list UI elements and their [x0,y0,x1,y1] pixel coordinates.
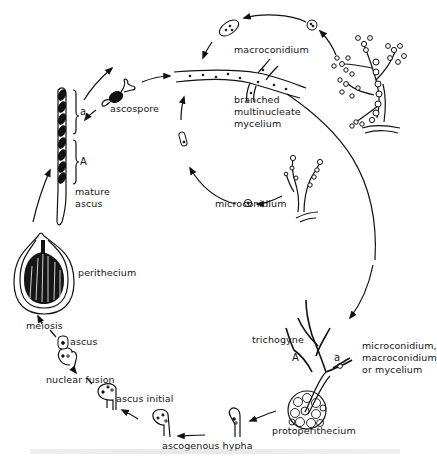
label-ascus: ascus [70,336,97,347]
macroconidiophore-drawing [332,36,407,133]
label-protoperithecium: protoperithecium [272,425,356,436]
protoperithecium-drawing [286,300,352,429]
label-ascus-initial: ascus initial [116,393,173,404]
label-macroconidium: macroconidium [234,44,309,55]
label-perithecium: perithecium [78,267,136,278]
ascospore-drawing [102,76,170,106]
label-ascospore: ascospore [110,103,159,114]
label-mature-ascus-2: ascus [75,198,102,209]
perithecium-drawing [14,233,74,314]
label-mature-ascus-1: mature [75,186,110,197]
label-microconidium: microconidium [215,198,287,209]
label-mycelium-1: branched [234,94,280,105]
label-trichogyne-A: A [292,352,299,363]
label-mycelium-2: multinucleate [234,106,301,117]
label-trichogyne: trichogyne [252,334,304,345]
label-mating-type-a: a [80,106,86,117]
label-mycelium-3: mycelium [234,118,281,129]
faded-caption-artifact [30,449,400,454]
microconidiophore-drawing [284,155,322,222]
label-mating-type-A: A [80,156,87,167]
label-nuclear-fusion: nuclear fusion [46,374,115,385]
fertilization-arc [287,94,375,260]
label-fertilizer-3: or mycelium [362,364,422,375]
label-fertilizer-1: microconidium, [362,340,437,351]
label-meiosis: meiosis [26,320,63,331]
label-fertilizer-2: macroconidium [362,352,437,363]
label-trichogyne-a: a [334,352,340,363]
